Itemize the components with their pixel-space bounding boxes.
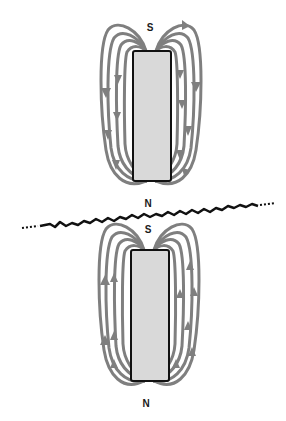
top-magnet-north-label: N bbox=[144, 199, 151, 209]
diagram-drawing bbox=[0, 0, 286, 421]
top-magnet-south-label: S bbox=[147, 23, 154, 33]
top-magnet bbox=[133, 51, 171, 181]
magnet-field-diagram: S N S N bbox=[0, 0, 286, 421]
bottom-magnet bbox=[131, 250, 169, 381]
bottom-magnet-south-label: S bbox=[145, 225, 152, 235]
bottom-magnet-north-label: N bbox=[142, 399, 149, 409]
